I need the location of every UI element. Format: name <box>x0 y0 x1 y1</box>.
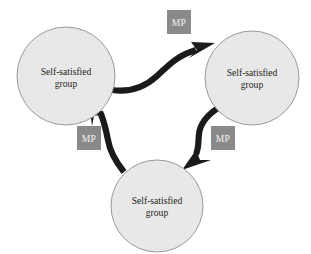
self-satisfied-group-right: Self-satisfied group <box>205 31 299 125</box>
node-label-bottom-line2: group <box>146 207 169 218</box>
node-label-bottom-line1: Self-satisfied <box>132 195 183 206</box>
node-circle-bottom <box>111 160 203 252</box>
arrow-left-to-right-shaft <box>112 50 196 91</box>
mp-badge-left-label: MP <box>82 133 96 144</box>
node-label-right-line2: group <box>241 79 264 90</box>
mp-badge-top: MP <box>167 10 191 34</box>
mp-badge-left: MP <box>77 126 101 150</box>
node-label-right-line1: Self-satisfied <box>227 67 278 78</box>
mp-badge-right-label: MP <box>216 133 230 144</box>
arrow-right-to-bottom-head <box>182 150 211 170</box>
self-satisfied-group-left: Self-satisfied group <box>17 27 115 125</box>
node-circle-right <box>205 31 299 125</box>
self-satisfied-group-bottom: Self-satisfied group <box>111 160 203 252</box>
arrow-bottom-to-left-shaft <box>100 112 124 172</box>
mp-badge-right: MP <box>211 126 235 150</box>
diagram-canvas: Self-satisfied group Self-satisfied grou… <box>0 0 311 254</box>
node-label-left-line2: group <box>55 78 78 89</box>
cycle-diagram: Self-satisfied group Self-satisfied grou… <box>0 0 311 254</box>
arrow-left-to-right <box>112 42 215 91</box>
node-label-left-line1: Self-satisfied <box>41 66 92 77</box>
mp-badge-top-label: MP <box>172 17 186 28</box>
